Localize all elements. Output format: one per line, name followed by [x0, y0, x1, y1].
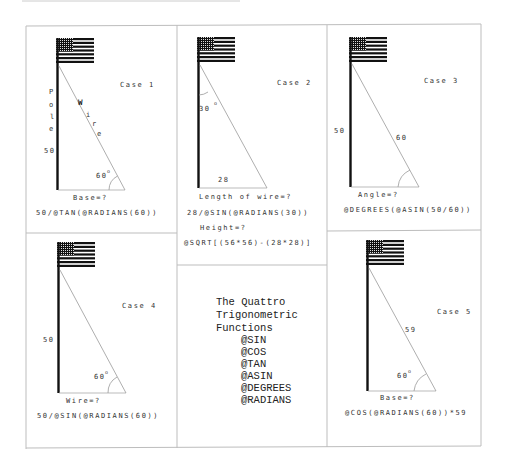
degree-symbol: o	[214, 100, 219, 106]
angle-arc	[108, 377, 117, 393]
legend-function: @SIN	[241, 334, 266, 346]
case-title: Case 1	[120, 81, 155, 89]
wire-line	[59, 66, 125, 190]
wire-line	[200, 65, 267, 188]
wire-letter: i	[86, 111, 92, 119]
unknown-label-2: Height=?	[200, 224, 247, 232]
pole-value: 50	[43, 336, 55, 344]
formula-2: @SQRT[(56*56)-(28*28)]	[184, 239, 312, 247]
trig-cases-sheet: Case 1 P o l e 50 W i r e 60 o Base=? 50…	[0, 0, 506, 457]
angle-label: 60	[397, 372, 409, 380]
formula: @DEGREES(@ASIN(50/60))	[344, 206, 472, 214]
flag-icon	[366, 240, 404, 265]
pole-letter: P	[49, 88, 55, 96]
case-title: Case 4	[122, 302, 157, 310]
angle-arc	[109, 176, 118, 190]
angle-label: 60	[96, 172, 108, 180]
pole-value: 50	[44, 147, 56, 155]
wire-letter: W	[78, 98, 84, 107]
legend-function: @DEGREES	[241, 382, 291, 394]
unknown-label: Length of wire=?	[199, 193, 292, 201]
formula: 50/@TAN(@RADIANS(60))	[36, 209, 158, 217]
angle-label: 30	[199, 105, 211, 113]
wire-value: 60	[396, 134, 408, 142]
case-5-panel: Case 5 59 60 o Base=? @COS(@RADIANS(60))…	[345, 240, 472, 417]
unknown-label: Wire=?	[66, 397, 101, 405]
case-title: Case 2	[277, 79, 312, 87]
flag-icon	[349, 37, 387, 62]
formula: 50/@SIN(@RADIANS(60))	[37, 412, 159, 420]
legend-title-line: Trigonometric	[216, 309, 298, 321]
unknown-label: Angle=?	[358, 191, 399, 199]
formula: 28/@SIN(@RADIANS(30))	[187, 209, 309, 217]
pole-value: 50	[334, 127, 346, 135]
wire-line	[60, 270, 126, 393]
flag-icon	[57, 242, 95, 267]
legend-function: @RADIANS	[241, 394, 291, 406]
flag-icon	[56, 38, 94, 63]
wire-letter: r	[92, 120, 98, 128]
functions-legend: The Quattro Trigonometric Functions @SIN…	[216, 296, 298, 406]
unknown-label: Base=?	[73, 194, 108, 202]
wire-value: 59	[405, 326, 417, 334]
legend-function: @COS	[241, 346, 266, 358]
case-title: Case 3	[424, 77, 459, 85]
legend-function: @ASIN	[241, 370, 273, 382]
wire-letter: e	[97, 130, 103, 138]
legend-title-line: The Quattro	[216, 296, 285, 308]
case-2-panel: Case 2 30 o 28 Length of wire=? 28/@SIN(…	[184, 37, 312, 247]
base-value: 28	[218, 176, 230, 184]
angle-arc	[199, 92, 208, 95]
case-3-panel: Case 3 50 60 Angle=? @DEGREES(@ASIN(50/6…	[334, 37, 472, 214]
case-1-panel: Case 1 P o l e 50 W i r e 60 o Base=? 50…	[36, 38, 158, 217]
pole-letter: l	[50, 113, 56, 121]
case-4-panel: Case 4 50 60 o Wire=? 50/@SIN(@RADIANS(6…	[37, 242, 159, 420]
pole-letter: o	[49, 101, 55, 109]
degree-symbol: o	[105, 369, 110, 375]
legend-function: @TAN	[241, 358, 266, 370]
unknown-label: Base=?	[380, 394, 415, 402]
pole-letter: e	[49, 125, 55, 133]
legend-title-line: Functions	[216, 322, 273, 334]
formula: @COS(@RADIANS(60))*59	[345, 409, 467, 417]
angle-arc	[414, 374, 426, 391]
angle-label: 60	[94, 373, 106, 381]
wire-line	[352, 64, 419, 187]
degree-symbol: o	[107, 168, 112, 174]
flag-icon	[197, 37, 235, 62]
angle-arc	[398, 170, 410, 187]
case-title: Case 5	[437, 308, 472, 316]
degree-symbol: o	[408, 368, 413, 374]
